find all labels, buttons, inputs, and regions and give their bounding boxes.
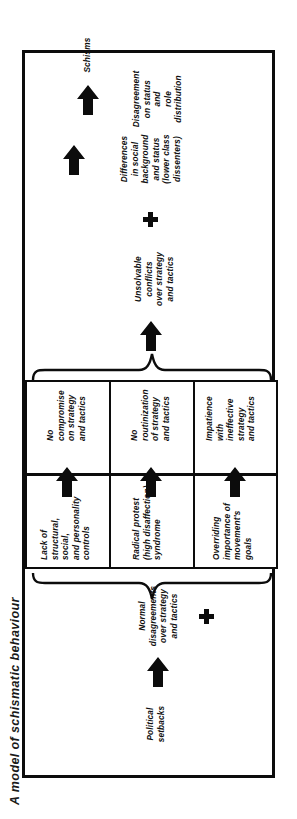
plus-operator-2 <box>143 212 158 227</box>
arrow-right-icon-2 <box>56 467 78 497</box>
arrow-right-icon-7 <box>77 85 99 115</box>
brace-right <box>31 348 273 382</box>
node-no-routinization: No routinization of strategy and tactics <box>129 379 171 441</box>
node-political-setbacks: Political setbacks <box>145 687 166 761</box>
diagram-frame: Political setbacks Normal disagreements … <box>22 50 275 778</box>
arrow-right-icon-4 <box>224 467 246 497</box>
figure-caption: A model of schismatic behaviour <box>8 597 22 805</box>
node-impatience: Impatience with ineffective strategy and… <box>204 379 257 441</box>
arrow-right-icon-6 <box>63 145 85 175</box>
figure-page: A model of schismatic behaviour Politica… <box>0 0 297 819</box>
node-disagreement-status: Disagreement on status and role distribu… <box>131 59 184 139</box>
grid-cell-impatience: Impatience with ineffective strategy and… <box>193 380 278 475</box>
brace-left <box>31 571 273 605</box>
node-no-compromise: No compromise on strategy and tactics <box>45 379 87 441</box>
grid-cell-no-compromise: No compromise on strategy and tactics <box>25 380 111 475</box>
arrow-right-icon-1 <box>147 657 169 687</box>
arrow-right-icon-5 <box>140 321 162 351</box>
arrow-right-icon-3 <box>140 467 162 497</box>
grid-cell-no-routinization: No routinization of strategy and tactics <box>109 380 195 475</box>
node-unsolvable-conflicts: Unsolvable conflicts over strategy and t… <box>133 241 175 317</box>
rotated-figure-stage: A model of schismatic behaviour Politica… <box>0 0 297 819</box>
plus-operator-1 <box>199 609 214 624</box>
conditions-grid: Lack of structural, social, and personal… <box>25 380 278 569</box>
node-schisms: Schisms <box>82 27 93 83</box>
